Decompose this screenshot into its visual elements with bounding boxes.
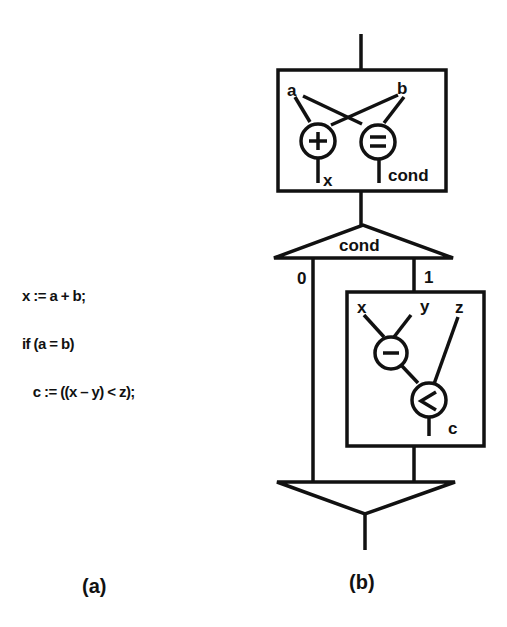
edge-a-eq xyxy=(303,96,362,124)
edge-x-minus xyxy=(364,315,384,337)
label-a: a xyxy=(287,81,297,100)
label-x-in: x xyxy=(357,298,367,317)
label-b: b xyxy=(397,79,407,98)
less-than-icon xyxy=(421,392,436,410)
equals-node xyxy=(361,125,395,159)
label-switch-cond: cond xyxy=(339,236,380,255)
dataflow-graph: a b x cond cond 0 1 x y z c xyxy=(0,0,507,627)
edge-minus-lt xyxy=(402,366,418,383)
label-y-in: y xyxy=(420,297,430,316)
label-x-out: x xyxy=(323,171,333,190)
label-c-out: c xyxy=(448,419,457,438)
label-branch-1: 1 xyxy=(424,268,433,287)
label-z-in: z xyxy=(455,298,464,317)
label-cond-out: cond xyxy=(388,166,429,185)
label-branch-0: 0 xyxy=(297,269,306,288)
edge-a-plus xyxy=(295,97,310,122)
edge-z-lt xyxy=(434,317,458,384)
merge-triangle xyxy=(277,482,455,514)
edge-y-minus xyxy=(394,315,411,337)
lt-node xyxy=(412,383,446,417)
